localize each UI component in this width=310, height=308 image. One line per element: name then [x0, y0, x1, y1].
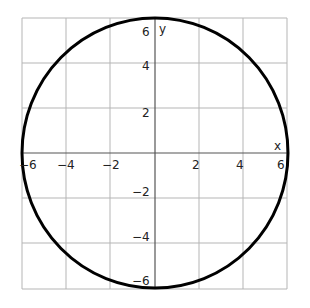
x-tick-neg2: −2 [102, 158, 120, 172]
x-tick-4: 4 [236, 158, 244, 172]
y-tick-neg6: −6 [132, 274, 150, 288]
y-tick-6: 6 [142, 25, 150, 39]
y-tick-neg2: −2 [132, 185, 150, 199]
y-axis-label: y [159, 22, 166, 36]
x-axis-label: x [274, 139, 281, 153]
y-tick-neg4: −4 [132, 230, 150, 244]
x-tick-2: 2 [192, 158, 200, 172]
x-tick-6: 6 [277, 158, 285, 172]
x-tick-neg6: −6 [19, 158, 37, 172]
x-tick-neg4: −4 [57, 158, 75, 172]
y-tick-4: 4 [142, 59, 150, 73]
coordinate-plane: 6 4 2 −2 −4 −6 −6 −4 −2 2 4 6 y x [0, 0, 310, 308]
y-tick-2: 2 [142, 106, 150, 120]
